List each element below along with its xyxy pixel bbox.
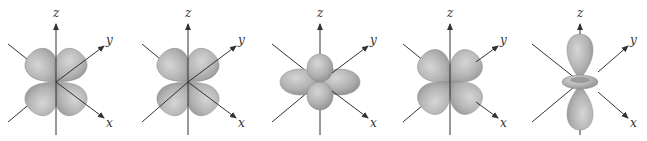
orbital-panel-5: z y x bbox=[532, 6, 637, 135]
orbital-panel-4: z y x bbox=[403, 6, 507, 135]
y-axis-label: y bbox=[369, 33, 377, 47]
y-axis bbox=[332, 46, 368, 73]
x-axis bbox=[332, 91, 368, 118]
orbital-panel-1: z y x bbox=[8, 6, 113, 135]
y-axis bbox=[476, 46, 498, 62]
d-orbitals-figure: z y x z y x z y x bbox=[0, 0, 647, 141]
y-axis-label: y bbox=[105, 33, 113, 47]
z-axis-label: z bbox=[576, 6, 584, 20]
x-axis bbox=[476, 102, 498, 118]
x-axis-label: x bbox=[500, 116, 507, 130]
x-axis bbox=[598, 92, 628, 118]
y-axis-label: y bbox=[499, 33, 507, 47]
orbital-lobes bbox=[280, 54, 360, 110]
orbital-panel-3: z y x bbox=[272, 6, 377, 135]
x-axis-label: x bbox=[370, 116, 377, 130]
z-axis-label: z bbox=[446, 6, 454, 20]
z-axis-label: z bbox=[316, 6, 324, 20]
z-axis-label: z bbox=[52, 6, 60, 20]
x-axis-label: x bbox=[238, 116, 245, 130]
x-axis-label: x bbox=[106, 116, 113, 130]
z-axis-label: z bbox=[184, 6, 192, 20]
x-axis-label: x bbox=[630, 116, 637, 130]
orbital-panel-2: z y x bbox=[142, 6, 245, 135]
orbital-lobes bbox=[562, 34, 598, 130]
y-axis-label: y bbox=[629, 33, 637, 47]
y-axis bbox=[598, 46, 628, 72]
y-axis-label: y bbox=[237, 33, 245, 47]
